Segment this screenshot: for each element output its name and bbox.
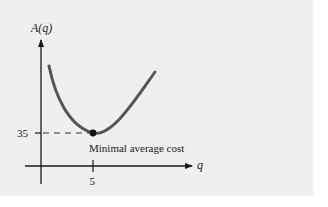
average-cost-curve <box>49 66 155 133</box>
y-axis-label: A(q) <box>30 21 52 35</box>
chart-svg: A(q) q 35 5 Minimal average cost <box>0 0 328 207</box>
minimum-point <box>90 130 97 137</box>
x-axis-label: q <box>197 158 203 172</box>
x-tick-label: 5 <box>90 175 96 187</box>
min-cost-annotation: Minimal average cost <box>89 142 184 154</box>
y-tick-label: 35 <box>17 127 29 139</box>
